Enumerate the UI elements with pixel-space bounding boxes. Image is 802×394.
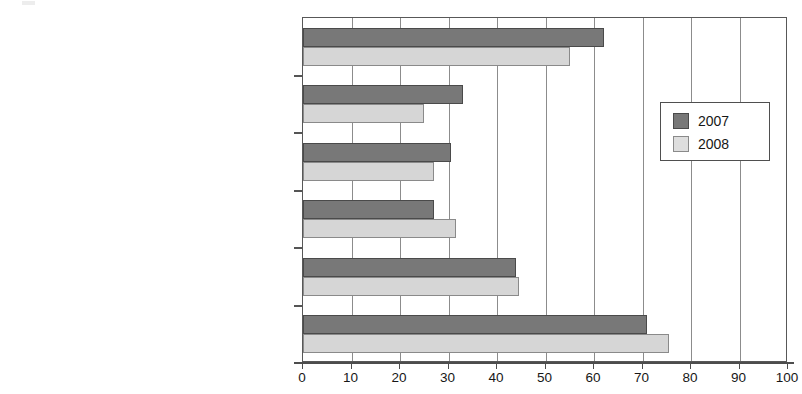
bar-2007 <box>303 143 451 162</box>
bar-2007 <box>303 315 647 334</box>
legend-swatch-2008-icon <box>673 136 689 152</box>
x-axis-tick-10 <box>351 362 352 369</box>
x-axis-label-70: 70 <box>634 370 649 386</box>
bar-group <box>303 191 786 249</box>
bar-2007 <box>303 28 604 47</box>
bar-2008 <box>303 47 570 66</box>
bar-2008 <box>303 162 434 181</box>
x-axis-tick-30 <box>448 362 449 369</box>
x-axis-label-90: 90 <box>731 370 746 386</box>
x-axis-label-100: 100 <box>776 370 799 386</box>
bar-2007 <box>303 85 463 104</box>
chart-legend: 2007 2008 <box>660 102 770 161</box>
x-axis-tick-20 <box>399 362 400 369</box>
bar-2007 <box>303 258 516 277</box>
x-axis-tick-90 <box>739 362 740 369</box>
chart-page: Pro increasing private sector involvemen… <box>0 0 802 394</box>
legend-swatch-2007-icon <box>673 113 689 129</box>
bar-2007 <box>303 200 434 219</box>
x-axis-label-50: 50 <box>537 370 552 386</box>
bar-2008 <box>303 104 424 123</box>
x-axis-tick-60 <box>593 362 594 369</box>
plot-area <box>302 17 787 362</box>
legend-label-2008: 2008 <box>698 136 729 152</box>
bar-group <box>303 18 786 76</box>
legend-entry-2008: 2008 <box>673 132 769 155</box>
x-axis-label-80: 80 <box>682 370 697 386</box>
scan-artifact <box>22 1 35 5</box>
bar-2008 <box>303 277 519 296</box>
bar-group <box>303 248 786 306</box>
x-axis-tick-0 <box>302 362 303 369</box>
bar-2008 <box>303 334 669 353</box>
x-axis-tick-50 <box>545 362 546 369</box>
x-axis-tick-80 <box>690 362 691 369</box>
x-axis-label-40: 40 <box>488 370 503 386</box>
legend-entry-2007: 2007 <box>673 109 769 132</box>
bar-2008 <box>303 219 456 238</box>
bar-group <box>303 306 786 364</box>
x-axis-label-30: 30 <box>440 370 455 386</box>
x-axis-label-20: 20 <box>391 370 406 386</box>
x-axis-label-10: 10 <box>343 370 358 386</box>
x-axis-label-60: 60 <box>585 370 600 386</box>
x-axis-tick-70 <box>642 362 643 369</box>
x-axis-tick-100 <box>787 362 788 369</box>
legend-label-2007: 2007 <box>698 113 729 129</box>
x-axis-label-0: 0 <box>298 370 306 386</box>
x-axis-tick-40 <box>496 362 497 369</box>
